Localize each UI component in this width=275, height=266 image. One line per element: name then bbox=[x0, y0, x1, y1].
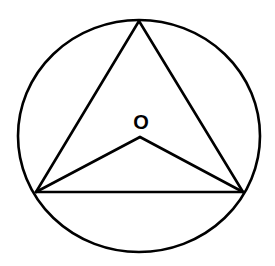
circle-triangle-diagram: O bbox=[0, 0, 275, 266]
center-label-o: O bbox=[133, 111, 149, 133]
side-top-right bbox=[139, 21, 243, 192]
circle bbox=[18, 20, 260, 252]
side-top-left bbox=[36, 21, 139, 192]
